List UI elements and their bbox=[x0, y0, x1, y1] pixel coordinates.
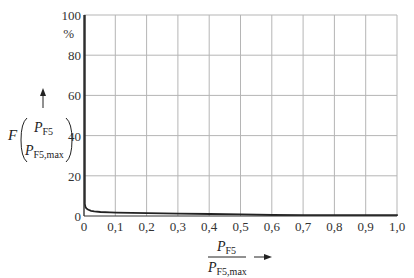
y-tick-label: 60 bbox=[68, 88, 81, 103]
x-tick-label: 0,6 bbox=[264, 219, 281, 234]
y-tick-label: 40 bbox=[68, 129, 81, 144]
x-num-sub: F5 bbox=[226, 245, 237, 256]
arrow-up-icon bbox=[40, 88, 46, 96]
x-den-symbol: P bbox=[207, 260, 217, 275]
y-tick-label: 20 bbox=[68, 169, 81, 184]
x-axis-ticks: 00,10,20,30,40,50,60,70,80,91,0 bbox=[81, 219, 405, 234]
x-label-numerator: PF5 bbox=[216, 239, 236, 256]
y-axis-label: F PF5 PF5,max bbox=[7, 88, 72, 162]
x-tick-label: 0,3 bbox=[170, 219, 186, 234]
x-label-denominator: PF5,max bbox=[207, 260, 247, 277]
x-axis-label: PF5 PF5,max bbox=[207, 239, 272, 277]
y-label-func: F bbox=[7, 127, 18, 143]
y-den-sub: F5,max bbox=[34, 149, 64, 160]
y-label-denominator: PF5,max bbox=[24, 143, 64, 160]
x-tick-label: 0,8 bbox=[326, 219, 342, 234]
y-tick-label: 80 bbox=[68, 48, 81, 63]
x-tick-label: 0,4 bbox=[201, 219, 218, 234]
chart: 020406080100 00,10,20,30,40,50,60,70,80,… bbox=[0, 0, 414, 278]
y-num-sub: F5 bbox=[43, 126, 54, 137]
x-tick-label: 0,5 bbox=[232, 219, 248, 234]
x-tick-label: 0,1 bbox=[107, 219, 123, 234]
y-label-numerator: PF5 bbox=[33, 120, 53, 137]
y-unit-label: % bbox=[63, 26, 74, 41]
y-tick-label: 100 bbox=[62, 8, 82, 23]
x-tick-label: 0,7 bbox=[295, 219, 312, 234]
x-tick-label: 0,2 bbox=[138, 219, 154, 234]
x-tick-label: 0 bbox=[81, 219, 88, 234]
x-num-symbol: P bbox=[216, 239, 226, 254]
x-den-sub: F5,max bbox=[217, 266, 247, 277]
y-num-symbol: P bbox=[33, 120, 43, 135]
x-tick-label: 1,0 bbox=[389, 219, 405, 234]
data-curve bbox=[85, 15, 398, 215]
grid-lines bbox=[84, 15, 397, 216]
x-tick-label: 0,9 bbox=[358, 219, 374, 234]
y-den-symbol: P bbox=[24, 143, 34, 158]
arrow-right-icon bbox=[264, 254, 272, 260]
